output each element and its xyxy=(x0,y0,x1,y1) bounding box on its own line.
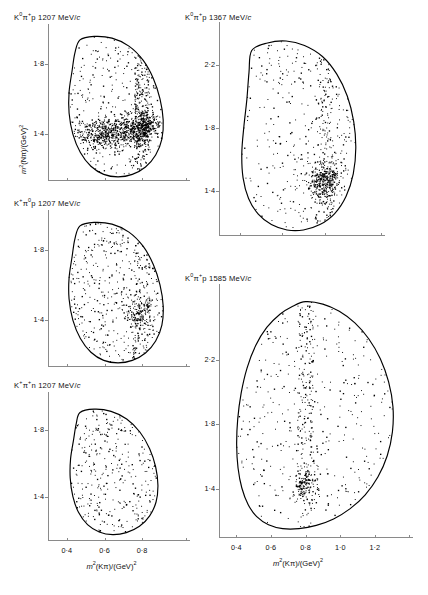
x-axis-label: m2(Kπ)/(GeV)2 xyxy=(86,560,136,571)
dalitz-boundary xyxy=(69,36,164,177)
scatter-canvas xyxy=(48,218,176,366)
y-tick-label: 1·4 xyxy=(22,315,44,324)
x-tick xyxy=(381,233,382,236)
data-points xyxy=(242,41,356,228)
dalitz-plot-kzero-pi-p-1585: 1·41·82·20·40·60·81·01·2 xyxy=(219,292,399,537)
dalitz-plot-kplus-pizero-p-1207: 1·41·8 xyxy=(48,218,176,366)
data-points xyxy=(69,223,164,362)
y-tick-label: 1·8 xyxy=(193,123,215,132)
data-points xyxy=(68,36,162,174)
scatter-canvas xyxy=(48,400,176,540)
dalitz-plot-kzero-pi-p-1367: 1·41·82·2 xyxy=(219,30,371,235)
y-axis-label: m2(Nπ)/(GeV)2 xyxy=(18,125,28,174)
x-tick-label: 0·8 xyxy=(295,543,317,552)
x-tick xyxy=(186,538,187,541)
y-tick-label: 1·8 xyxy=(193,419,215,428)
y-tick-label: 1·4 xyxy=(193,186,215,195)
x-tick-label: 0·6 xyxy=(260,543,282,552)
x-tick-label: 0·6 xyxy=(94,546,116,555)
scatter-canvas xyxy=(48,32,176,180)
dalitz-boundary xyxy=(242,41,356,231)
plot-title-kzero-pi-p-1207: K0π+p 1207 MeV/c xyxy=(14,11,81,22)
y-tick-label: 1·8 xyxy=(22,425,44,434)
data-points xyxy=(71,411,157,533)
x-tick-label: 0·4 xyxy=(56,546,78,555)
plot-title-kzero-pi-p-1585: K0π+p 1585 MeV/c xyxy=(185,272,252,283)
dalitz-plot-kplus-pi-n-1207: 1·41·80·40·60·8 xyxy=(48,400,176,540)
x-tick xyxy=(186,364,187,367)
x-tick-label: 0·8 xyxy=(131,546,153,555)
dalitz-boundary xyxy=(237,302,394,529)
x-axis-line xyxy=(48,540,190,541)
x-tick-label: 1·2 xyxy=(364,543,386,552)
x-tick xyxy=(186,178,187,181)
x-axis-label: m2(Kπ)/(GeV)2 xyxy=(273,557,323,568)
y-tick-label: 1·4 xyxy=(22,492,44,501)
plot-title-kplus-pi-n-1207: K+π+n 1207 MeV/c xyxy=(14,379,81,390)
x-tick-label: 1·0 xyxy=(329,543,351,552)
y-tick-label: 1·4 xyxy=(193,484,215,493)
y-tick-label: 1·8 xyxy=(22,245,44,254)
y-tick-label: 2·2 xyxy=(193,355,215,364)
scatter-canvas xyxy=(219,30,371,235)
x-axis-line xyxy=(48,366,190,367)
x-axis-line xyxy=(48,180,190,181)
scatter-canvas xyxy=(219,292,399,537)
plot-title-kzero-pi-p-1367: K0π+p 1367 MeV/c xyxy=(185,11,252,22)
y-tick-label: 2·2 xyxy=(193,60,215,69)
y-tick-label: 1·8 xyxy=(22,59,44,68)
x-tick xyxy=(409,535,410,538)
data-points xyxy=(236,302,392,527)
x-axis-line xyxy=(219,537,413,538)
dalitz-plot-kzero-pi-p-1207: 1·41·8 xyxy=(48,32,176,180)
x-axis-line xyxy=(219,235,385,236)
plot-title-kplus-pizero-p-1207: K+π0p 1207 MeV/c xyxy=(14,197,81,208)
x-tick-label: 0·4 xyxy=(225,543,247,552)
